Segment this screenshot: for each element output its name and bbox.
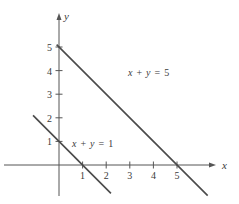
line-x-y-1 bbox=[33, 115, 111, 193]
axes bbox=[4, 13, 216, 196]
y-tick-label: 5 bbox=[47, 42, 52, 53]
graph-figure: 1234512345 xyx + y = 1x + y = 5 bbox=[0, 0, 239, 204]
y-tick-label: 4 bbox=[47, 66, 52, 77]
x-tick-label: 5 bbox=[175, 170, 180, 181]
x-tick-label: 4 bbox=[151, 170, 156, 181]
axis-ticks: 1234512345 bbox=[47, 42, 180, 181]
x-tick-label: 3 bbox=[127, 170, 132, 181]
equation-label: x + y = 5 bbox=[127, 67, 169, 78]
x-tick-label: 1 bbox=[80, 170, 85, 181]
x-axis-label: x bbox=[221, 159, 227, 171]
y-tick-label: 3 bbox=[47, 89, 52, 100]
y-axis-label: y bbox=[63, 10, 69, 22]
y-tick-label: 1 bbox=[47, 136, 52, 147]
x-axis-arrow-icon bbox=[209, 163, 216, 168]
y-axis-arrow-icon bbox=[57, 13, 62, 20]
x-tick-label: 2 bbox=[104, 170, 109, 181]
equation-label: x + y = 1 bbox=[71, 138, 113, 149]
y-tick-label: 2 bbox=[47, 113, 52, 124]
labels: xyx + y = 1x + y = 5 bbox=[63, 10, 227, 171]
